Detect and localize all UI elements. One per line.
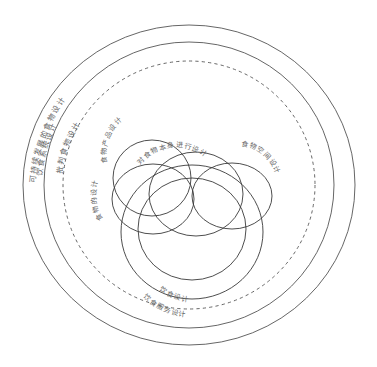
label-food-itself: 对食物本身进行设计	[135, 140, 210, 166]
label-dietary: 饮食设计	[158, 284, 190, 303]
venn-diagram: 可持续发展的食物设计 饮食系统设计 批判食物设计 食物产品设计 对食物本身进行设…	[0, 0, 377, 367]
circle-food-space	[192, 163, 272, 229]
diagram-root: 可持续发展的食物设计 饮食系统设计 批判食物设计 食物产品设计 对食物本身进行设…	[0, 0, 377, 367]
label-food-product: 食物产品设计	[99, 115, 125, 164]
circle-food-of	[112, 164, 194, 234]
label-food-of: 食物的设计	[89, 178, 106, 222]
label-ring-third: 批判食物设计	[54, 119, 82, 174]
ring-third-circle	[63, 61, 315, 309]
label-food-space: 食物空间设计	[240, 139, 283, 176]
ring-second-circle	[44, 42, 334, 328]
